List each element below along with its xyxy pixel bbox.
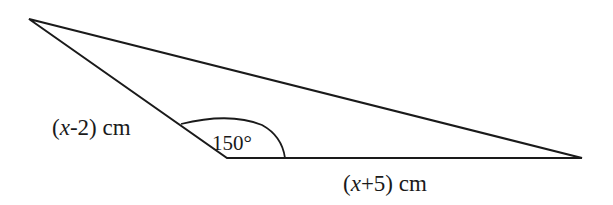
angle-label: 150° xyxy=(212,133,252,154)
side-left-rest: -2) cm xyxy=(70,115,131,140)
side-bottom-rest: +5) cm xyxy=(361,171,427,196)
side-bottom-variable: x xyxy=(351,171,361,196)
side-left-variable: x xyxy=(60,115,70,140)
side-bottom-open: ( xyxy=(343,171,351,196)
side-left-label: (x-2) cm xyxy=(52,116,131,139)
triangle-diagram xyxy=(0,0,613,205)
side-bottom-label: (x+5) cm xyxy=(343,172,427,195)
side-left-open: ( xyxy=(52,115,60,140)
